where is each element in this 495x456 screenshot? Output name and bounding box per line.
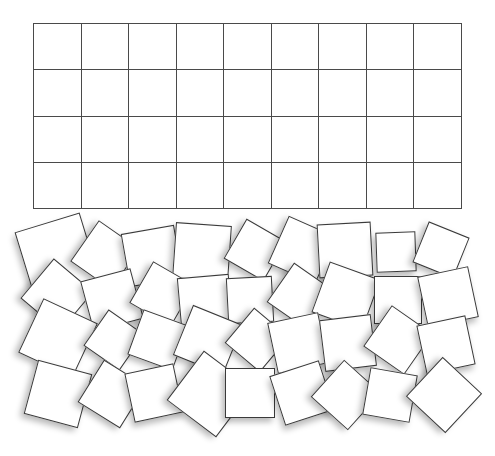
square-tile[interactable] [375,231,416,272]
square-tile[interactable] [172,222,232,282]
square-tile[interactable] [225,368,275,418]
scattered-tile-pile [0,0,495,456]
square-tile[interactable] [406,357,482,433]
worksheet-canvas [0,0,495,456]
